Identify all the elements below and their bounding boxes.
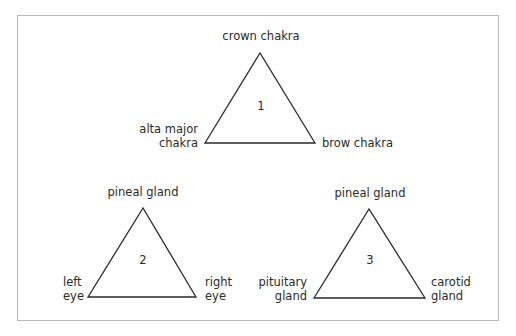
label-line: right	[205, 275, 232, 289]
label-line: brow chakra	[322, 136, 393, 150]
triangle-1-top-label: crown chakra	[222, 29, 299, 43]
triangle-3-right-label: carotid gland	[431, 275, 471, 303]
triangle-1	[205, 53, 315, 143]
triangle-2-right-label: right eye	[205, 275, 232, 303]
triangle-2-number: 2	[139, 253, 146, 267]
triangle-1-number: 1	[257, 99, 264, 113]
label-line: eye	[205, 289, 232, 303]
triangle-1-right-label: brow chakra	[322, 136, 393, 150]
label-line: eye	[63, 289, 84, 303]
label-line: alta major	[139, 122, 198, 136]
label-line: left	[63, 275, 84, 289]
triangle-3-top-label: pineal gland	[335, 186, 406, 200]
triangle-3-left-label: pituitary gland	[258, 275, 307, 303]
label-line: gland	[258, 289, 307, 303]
triangle-2-top-label: pineal gland	[108, 185, 179, 199]
label-line: gland	[431, 289, 471, 303]
triangle-3-number: 3	[366, 253, 373, 267]
triangle-1-left-label: alta major chakra	[139, 122, 198, 150]
label-line: carotid	[431, 275, 471, 289]
triangle-2-left-label: left eye	[63, 275, 84, 303]
label-line: chakra	[139, 136, 198, 150]
label-line: pituitary	[258, 275, 307, 289]
